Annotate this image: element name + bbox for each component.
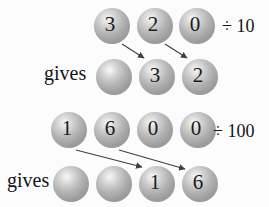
s2-top-ball-3: 0 <box>137 112 173 148</box>
shift-arrow-s2-1 <box>76 150 142 167</box>
division-place-value-diagram: 3 2 0 ÷ 10 gives 3 2 1 6 0 0 ÷ 100 gives… <box>0 0 269 207</box>
s1-top-ball-1: 3 <box>94 8 130 44</box>
s2-top-ball-4: 0 <box>180 112 216 148</box>
ball-digit: 3 <box>105 14 116 35</box>
divide-by-10-label: ÷ 10 <box>222 17 254 35</box>
ball-digit: 2 <box>148 14 159 35</box>
s2-top-ball-1: 1 <box>51 112 87 148</box>
gives-label-1: gives <box>44 63 86 83</box>
ball-digit: 1 <box>62 118 73 139</box>
ball-digit: 0 <box>190 14 201 35</box>
gives-label-2: gives <box>7 170 49 190</box>
divide-by-100-label: ÷ 100 <box>213 122 254 140</box>
ball-digit: 1 <box>150 172 161 193</box>
s2-result-ball-4: 6 <box>182 166 218 202</box>
s1-result-ball-2: 3 <box>139 59 175 95</box>
ball-digit: 2 <box>193 65 204 86</box>
s2-result-ball-2 <box>96 166 132 202</box>
s2-result-ball-3: 1 <box>139 166 175 202</box>
shift-arrow-s1-2 <box>165 44 187 58</box>
s1-result-ball-3: 2 <box>182 59 218 95</box>
s1-top-ball-3: 0 <box>179 8 215 44</box>
ball-digit: 6 <box>105 118 116 139</box>
s1-result-ball-1 <box>96 59 132 95</box>
ball-digit: 3 <box>150 65 161 86</box>
ball-digit: 6 <box>193 172 204 193</box>
ball-digit: 0 <box>191 118 202 139</box>
s1-top-ball-2: 2 <box>137 8 173 44</box>
ball-digit: 0 <box>148 118 159 139</box>
shift-arrow-s1-1 <box>122 44 144 58</box>
s2-result-ball-1 <box>53 166 89 202</box>
s2-top-ball-2: 6 <box>94 112 130 148</box>
